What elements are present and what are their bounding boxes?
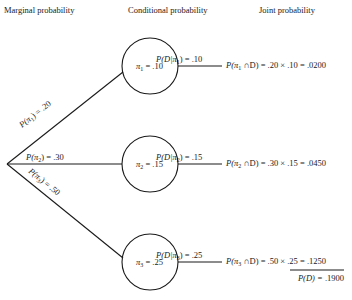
marginal-label-1: P(π1) = .20 xyxy=(16,98,53,131)
marginal-label-2: P(π2) = .30 xyxy=(25,152,64,163)
branch-line-3 xyxy=(7,164,123,258)
joint-label-1: P(π1 ∩D) = .20 × .10 = .0200 xyxy=(225,60,326,71)
conditional-label-2: P(D|π2) = .15 xyxy=(155,152,202,163)
marginal-label-3: P(π3) = .50 xyxy=(25,165,62,198)
conditional-label-3: P(D|π3) = .25 xyxy=(155,250,202,261)
joint-label-3: P(π3 ∩D) = .50 × .25 = .1250 xyxy=(225,256,326,267)
conditional-label-1: P(D|π1) = .10 xyxy=(155,54,202,65)
total-probability-label: P(D) = .1900 xyxy=(297,273,344,283)
joint-label-2: P(π2 ∩D) = .30 × .15 = .0450 xyxy=(225,158,326,169)
probability-tree-diagram: P(π1) = .20 P(π2) = .30 P(π3) = .50 π1 =… xyxy=(0,0,352,300)
